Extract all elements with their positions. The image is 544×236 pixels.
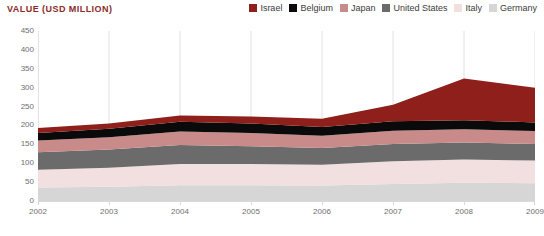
legend-swatch-united-states [382, 4, 390, 12]
legend-swatch-italy [454, 4, 462, 12]
x-axis: 20022003200420052006200720082009 [0, 207, 542, 221]
x-tick-2007: 2007 [384, 207, 402, 217]
x-tick-mark-2007 [393, 201, 394, 205]
x-tick-mark-2004 [180, 201, 181, 205]
y-tick-350: 350 [0, 65, 34, 73]
legend-item-belgium[interactable]: Belgium [289, 3, 333, 13]
stacked-area-svg [38, 31, 535, 201]
legend-label-united-states: United States [393, 3, 447, 13]
x-axis-baseline [38, 201, 535, 202]
x-tick-2006: 2006 [313, 207, 331, 217]
legend-item-israel[interactable]: Israel [249, 3, 282, 13]
x-tick-2008: 2008 [455, 207, 473, 217]
x-tick-mark-2006 [322, 201, 323, 205]
legend-label-japan: Japan [351, 3, 376, 13]
x-tick-2009: 2009 [526, 207, 544, 217]
y-tick-200: 200 [0, 121, 34, 129]
legend-swatch-germany [489, 4, 497, 12]
legend-label-italy: Italy [465, 3, 482, 13]
y-axis: 050100150200250300350400450 [0, 31, 34, 201]
x-tick-2004: 2004 [171, 207, 189, 217]
y-tick-0: 0 [0, 197, 34, 205]
x-tick-mark-2008 [464, 201, 465, 205]
chart-title: VALUE (USD MILLION) [7, 4, 112, 14]
legend-item-germany[interactable]: Germany [489, 3, 537, 13]
x-tick-mark-2003 [109, 201, 110, 205]
y-tick-50: 50 [0, 178, 34, 186]
x-tick-2003: 2003 [100, 207, 118, 217]
legend-swatch-japan [340, 4, 348, 12]
y-tick-250: 250 [0, 103, 34, 111]
legend-label-germany: Germany [500, 3, 537, 13]
y-tick-150: 150 [0, 140, 34, 148]
x-tick-mark-2005 [251, 201, 252, 205]
x-tick-2005: 2005 [242, 207, 260, 217]
x-tick-2002: 2002 [29, 207, 47, 217]
legend-swatch-israel [249, 4, 257, 12]
legend-item-japan[interactable]: Japan [340, 3, 376, 13]
y-tick-100: 100 [0, 159, 34, 167]
y-tick-400: 400 [0, 46, 34, 54]
y-tick-300: 300 [0, 84, 34, 92]
legend-label-israel: Israel [260, 3, 282, 13]
legend-label-belgium: Belgium [300, 3, 333, 13]
legend-swatch-belgium [289, 4, 297, 12]
legend-item-italy[interactable]: Italy [454, 3, 482, 13]
legend-item-united-states[interactable]: United States [382, 3, 447, 13]
y-tick-450: 450 [0, 27, 34, 35]
chart-legend: Israel Belgium Japan United States Italy… [249, 3, 537, 13]
x-tick-mark-2009 [534, 201, 535, 205]
x-tick-mark-2002 [38, 201, 39, 205]
plot-area [38, 31, 535, 201]
